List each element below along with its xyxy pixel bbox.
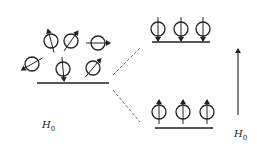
spin-icon bbox=[196, 17, 210, 41]
left-field-label: H0 bbox=[42, 119, 55, 133]
dashed-line bbox=[113, 90, 140, 122]
lower-energy-level bbox=[152, 100, 214, 128]
spin-icon bbox=[174, 17, 188, 41]
spin-icon bbox=[86, 36, 110, 50]
spin-icon bbox=[200, 100, 214, 124]
upper-energy-level bbox=[151, 17, 210, 42]
spin-icon bbox=[152, 100, 166, 124]
spin-icon bbox=[44, 29, 58, 52]
spin-icon bbox=[85, 59, 100, 77]
dashed-line bbox=[113, 48, 140, 75]
splitting-dashed-lines bbox=[113, 48, 140, 122]
spin-icon bbox=[64, 31, 78, 51]
spin-icon bbox=[22, 57, 43, 71]
right-field-label: H0 bbox=[234, 128, 247, 142]
spin-icon bbox=[151, 17, 165, 41]
diagram-canvas bbox=[0, 0, 257, 150]
spin-icon bbox=[56, 57, 70, 81]
spin-icon bbox=[176, 100, 190, 124]
random-spins-group bbox=[22, 29, 110, 83]
spin-splitting-diagram: H0 H0 bbox=[0, 0, 257, 150]
